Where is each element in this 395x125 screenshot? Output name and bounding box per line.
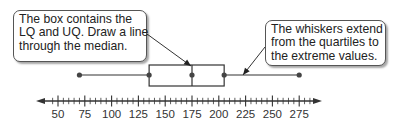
quartile-box xyxy=(149,65,224,86)
tick-label: 75 xyxy=(78,108,91,120)
callout-arrows xyxy=(147,34,265,75)
max-point xyxy=(297,72,302,77)
tick-label: 175 xyxy=(182,108,201,120)
tick-label: 200 xyxy=(209,108,228,120)
arrow-to-median xyxy=(147,34,191,66)
callout-box-explanation: The box contains the LQ and UQ. Draw a l… xyxy=(13,10,147,62)
callout-line: from the quartiles to xyxy=(271,36,380,49)
tick-label: 50 xyxy=(52,108,65,120)
tick-label: 100 xyxy=(102,108,121,120)
box-plot-diagram: 5075100125150175200225250275 The box con… xyxy=(0,0,395,125)
arrow-to-whisker-head-icon xyxy=(243,68,250,75)
number-line: 5075100125150175200225250275 xyxy=(36,96,322,121)
min-point xyxy=(77,72,82,77)
callout-line: LQ and UQ. Draw a line xyxy=(19,26,141,39)
tick-label: 225 xyxy=(236,108,255,120)
callout-line: The whiskers extend xyxy=(271,23,380,36)
callout-line: the extreme values. xyxy=(271,50,380,63)
median-point xyxy=(189,72,194,77)
box-and-whiskers xyxy=(77,65,302,86)
arrow-left-icon xyxy=(36,98,45,104)
callout-line: The box contains the xyxy=(19,13,141,26)
tick-label: 125 xyxy=(129,108,148,120)
callout-line: through the median. xyxy=(19,40,141,53)
callout-whiskers-explanation: The whiskers extend from the quartiles t… xyxy=(265,20,386,66)
q1-point xyxy=(147,72,152,77)
tick-label: 250 xyxy=(263,108,282,120)
tick-label: 150 xyxy=(156,108,175,120)
q3-point xyxy=(222,72,227,77)
tick-label: 275 xyxy=(290,108,309,120)
arrow-right-icon xyxy=(313,98,322,104)
